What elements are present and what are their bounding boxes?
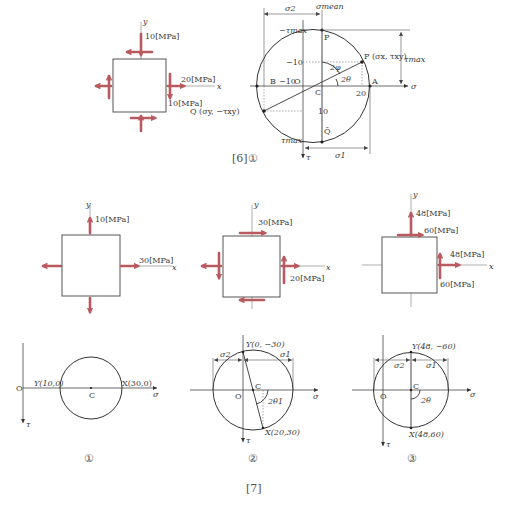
element-square	[382, 237, 437, 293]
point-Y-label: Y(0, −30)	[246, 340, 285, 349]
fig7-case2-mohr: σ2 σ1 Y(0, −30) X(20,30) C O 2θ1 σ τ	[190, 335, 319, 445]
sigma2-label: σ2	[220, 350, 231, 359]
angle-2theta-arc	[336, 79, 338, 86]
point-Y	[242, 351, 245, 354]
tick-10-y: 10	[318, 107, 328, 116]
fig7-case3-element: y x 48[MPa] 60[MPa] 48[MPa] 60[MPa]	[362, 190, 494, 307]
x-axis-label: x	[217, 82, 222, 91]
point-X-label: X(30,0)	[122, 379, 152, 388]
point-X-label: X(20,30)	[264, 428, 300, 437]
origin-label: O	[294, 77, 301, 86]
center-label: C	[255, 382, 261, 391]
point-X	[262, 427, 265, 430]
tick-20-x: 20	[356, 89, 366, 98]
origin-label: O	[235, 392, 242, 401]
center-point	[252, 389, 254, 391]
sigma1-label: σ1	[426, 361, 437, 370]
point-X-label: X(48,60)	[408, 430, 444, 439]
sigma-axis-label: σ	[411, 82, 417, 91]
sigma-axis-label: σ	[313, 392, 319, 401]
right-stress-label: 20[MPa]	[290, 274, 324, 283]
point-Y-label: Y(10,0)	[34, 379, 63, 388]
case1-label: ①	[84, 452, 94, 465]
y-axis-label: y	[142, 17, 148, 26]
top-normal-label: 48[MPa]	[416, 209, 450, 218]
origin-label: O	[380, 392, 387, 401]
point-A-label: A	[371, 77, 378, 86]
point-C-label: C	[315, 88, 321, 97]
sigma-axis-label: σ	[153, 390, 159, 399]
point-Y	[410, 351, 413, 354]
top-stress-label: 10[MPa]	[95, 215, 129, 224]
angle-label: 2θ1	[267, 397, 283, 406]
top-stress-label: 30[MPa]	[258, 218, 292, 227]
top-shear-label: 60[MPa]	[424, 226, 458, 235]
case3-label: ③	[407, 452, 417, 465]
fig7-case1-element: y x 10[MPa] 30[MPa]	[43, 200, 177, 312]
tau-axis-label: τ	[26, 420, 31, 429]
point-Q-bar	[320, 140, 323, 143]
sigma1-label: σ1	[280, 350, 291, 359]
point-P-coord-label: P (σx, τxy)	[364, 52, 407, 61]
fig6-mohr-circle: σ τ σ2 σmean σ1 τmax	[190, 2, 426, 162]
sigma2-label: σ2	[285, 4, 296, 13]
tick-neg10-y: −10	[286, 58, 303, 67]
point-Q-bar-label: Q̄	[324, 127, 331, 136]
y-axis-label: y	[85, 200, 91, 209]
y-axis-label: y	[412, 190, 418, 199]
y-axis-label: y	[253, 200, 259, 209]
tau-axis-label: τ	[306, 153, 311, 162]
point-Y-label: Y(48, −60)	[412, 342, 456, 351]
figure-canvas: y x 10[MPa] 20[MPa] 10[MPa] σ τ	[0, 0, 513, 508]
neg-tau-max-label: −τmax	[279, 26, 307, 35]
tau-axis-label: τ	[246, 436, 251, 445]
point-X	[410, 427, 413, 430]
center-label: C	[413, 382, 419, 391]
element-square	[223, 236, 280, 297]
sigma-mean-label: σmean	[316, 2, 344, 11]
fig7-case1-mohr: O Y(10,0) X(30,0) C σ τ	[16, 343, 159, 429]
sigma1-label: σ1	[335, 151, 346, 160]
origin-label: O	[16, 384, 23, 393]
case2-label: ②	[248, 452, 258, 465]
point-B	[255, 84, 258, 87]
right-normal-label: 48[MPa]	[450, 250, 484, 259]
angle-arc	[256, 390, 268, 404]
angle-2theta-label: 2θ	[340, 75, 351, 84]
center-label: C	[89, 391, 95, 400]
angle-2phi-label: 2φ	[329, 63, 341, 72]
center-point	[410, 389, 412, 391]
top-stress-label: 10[MPa]	[145, 32, 179, 41]
element-square	[113, 59, 166, 112]
tau-axis-label: τ	[386, 440, 391, 449]
figure6-caption: [6]①	[232, 152, 258, 165]
right-shear-label: 60[MPa]	[440, 280, 474, 289]
pq-diameter	[264, 62, 362, 111]
point-B-label: B	[270, 77, 276, 86]
center-point	[90, 387, 92, 389]
point-Q-coord-label: Q (σy, −τxy)	[190, 107, 240, 116]
right-stress-label: 30[MPa]	[139, 256, 173, 265]
point-Q	[262, 109, 266, 113]
point-P-bar-label: P	[324, 33, 330, 42]
angle-arc	[411, 390, 420, 399]
tau-max-bottom-label: τmax	[281, 136, 303, 145]
x-axis-label: x	[489, 262, 494, 271]
angle-label: 2θ	[420, 396, 431, 405]
sigma2-label: σ2	[394, 361, 405, 370]
figure7-caption: [7]	[246, 482, 262, 495]
sigma-axis-label: σ	[470, 390, 476, 399]
tau-max-right-label: τmax	[404, 55, 426, 64]
fig7-case2-element: y x 30[MPa] 20[MPa]	[202, 200, 331, 309]
element-square	[62, 235, 120, 296]
right-normal-label: 20[MPa]	[181, 75, 215, 84]
fig7-case3-mohr: σ2 σ1 Y(48, −60) X(48,60) C O 2θ σ τ	[352, 335, 476, 449]
x-axis-label: x	[326, 263, 331, 272]
